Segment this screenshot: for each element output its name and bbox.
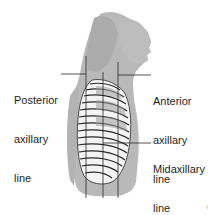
posterior-label-line1: Posterior — [14, 94, 58, 107]
posterior-axillary-label: Posterior axillary line — [14, 68, 58, 211]
midaxillary-label-line1: Midaxillary — [153, 163, 205, 176]
midaxillary-label: Midaxillary line — [153, 137, 205, 215]
anterior-label-line1: Anterior — [153, 95, 192, 108]
anatomy-diagram: Posterior axillary line Anterior axillar… — [0, 0, 224, 215]
page-mark: ı — [206, 200, 208, 213]
rib-cage — [77, 80, 131, 185]
midaxillary-label-line2: line — [153, 202, 205, 215]
posterior-label-line2: axillary — [14, 133, 58, 146]
posterior-label-line3: line — [14, 172, 58, 185]
